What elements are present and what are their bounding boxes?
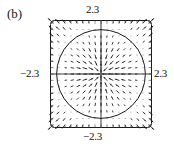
- figure-panel-b: (b) 2.3 −2.3 −2.3 2.3: [0, 0, 174, 148]
- axis-label-top: 2.3: [86, 4, 99, 15]
- axis-label-bottom: −2.3: [83, 131, 102, 142]
- axis-label-right: 2.3: [154, 68, 167, 79]
- axis-label-left: −2.3: [20, 68, 39, 79]
- panel-label: (b): [7, 7, 22, 20]
